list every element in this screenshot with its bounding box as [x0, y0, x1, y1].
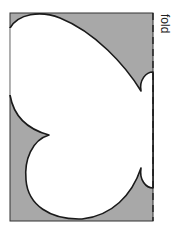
diagram-canvas: [0, 0, 180, 235]
fold-label: fold: [158, 14, 172, 44]
